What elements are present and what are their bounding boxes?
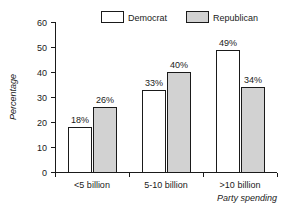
bar-republican-0[interactable] <box>94 108 117 173</box>
bar-value-democrat-1: 33% <box>145 78 163 88</box>
y-tick-label-0: 0 <box>42 168 47 178</box>
y-axis-ticks <box>51 23 56 173</box>
y-tick-label-50: 50 <box>37 43 47 53</box>
bar-democrat-1[interactable] <box>143 90 166 173</box>
bar-republican-1[interactable] <box>168 73 191 173</box>
bar-group-2: 49% 34% >10 billion <box>217 38 265 191</box>
y-tick-label-20: 20 <box>37 118 47 128</box>
bar-group-1: 33% 40% 5-10 billion <box>143 60 191 190</box>
bar-value-democrat-0: 18% <box>71 115 89 125</box>
category-label-2: >10 billion <box>220 180 261 190</box>
bar-value-democrat-2: 49% <box>219 38 237 48</box>
bar-value-republican-2: 34% <box>244 75 262 85</box>
chart-legend: Democrat Republican <box>101 12 258 24</box>
bar-democrat-2[interactable] <box>217 50 240 173</box>
bar-republican-2[interactable] <box>242 88 265 173</box>
y-tick-label-40: 40 <box>37 68 47 78</box>
y-tick-label-30: 30 <box>37 93 47 103</box>
category-label-1: 5-10 billion <box>144 180 188 190</box>
y-tick-label-10: 10 <box>37 143 47 153</box>
bar-chart: Democrat Republican 60 50 40 30 20 10 0 <box>0 0 285 207</box>
legend-swatch-democrat <box>101 12 123 23</box>
bar-value-republican-0: 26% <box>96 95 114 105</box>
legend-swatch-republican <box>186 12 208 23</box>
bar-democrat-0[interactable] <box>69 128 92 173</box>
chart-canvas: Democrat Republican 60 50 40 30 20 10 0 <box>0 0 285 207</box>
legend-label-republican: Republican <box>213 13 258 23</box>
category-label-0: <5 billion <box>74 180 110 190</box>
x-axis-title: Party spending <box>217 193 277 203</box>
y-axis-title: Percentage <box>8 74 18 120</box>
legend-label-democrat: Democrat <box>128 13 168 23</box>
y-axis-tick-labels: 60 50 40 30 20 10 0 <box>37 18 47 178</box>
bar-value-republican-1: 40% <box>170 60 188 70</box>
bar-group-0: 18% 26% <5 billion <box>69 95 117 190</box>
y-tick-label-60: 60 <box>37 18 47 28</box>
x-axis-ticks <box>56 173 278 178</box>
